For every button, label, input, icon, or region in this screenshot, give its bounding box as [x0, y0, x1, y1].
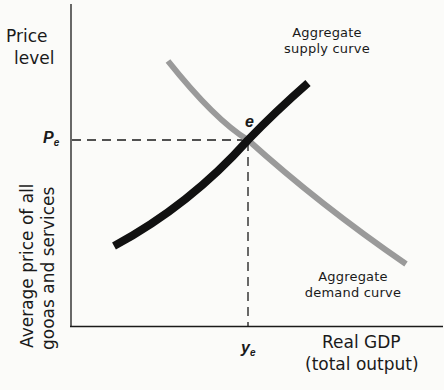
price-symbol: P — [43, 129, 54, 146]
equilibrium-point-label: e — [245, 113, 254, 131]
aggregate-demand-curve — [168, 61, 406, 264]
y-axis-description-line1: Average price of all — [18, 183, 37, 348]
x-axis-title-line2: (total output) — [305, 355, 419, 374]
supply-label-line2: supply curve — [272, 41, 382, 57]
equilibrium-price-label: Pe — [43, 129, 59, 148]
supply-label-line1: Aggregate — [272, 25, 382, 41]
demand-curve-label: Aggregate demand curve — [298, 269, 408, 301]
y-axis-description-line2: gooas and services — [39, 187, 58, 350]
price-subscript: e — [54, 137, 60, 148]
output-symbol: y — [241, 339, 250, 356]
demand-label-line1: Aggregate — [298, 269, 408, 285]
supply-curve-label: Aggregate supply curve — [272, 25, 382, 57]
demand-label-line2: demand curve — [298, 285, 408, 301]
equilibrium-output-label: ye — [241, 339, 255, 358]
output-subscript: e — [250, 347, 256, 358]
y-axis-title-line1: Price — [6, 27, 47, 46]
y-axis-title-line2: level — [14, 49, 54, 68]
x-axis-title-line1: Real GDP — [322, 333, 401, 352]
